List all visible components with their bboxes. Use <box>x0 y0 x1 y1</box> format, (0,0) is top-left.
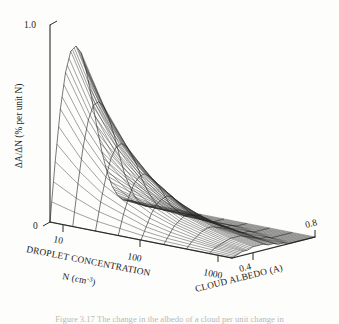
n-axis-unit-close: ) <box>91 277 96 288</box>
z-axis-tick-zero <box>43 222 50 226</box>
n-axis-unit-base: N (cm <box>61 271 88 287</box>
z-axis-tick-top <box>50 21 57 25</box>
albedo-tick-label-08: 0.8 <box>304 217 318 230</box>
z-tick-label-0: 0 <box>33 221 38 231</box>
n-tick-label-10: 10 <box>53 234 64 246</box>
figure-caption: Figure 3.17 The change in the albedo of … <box>0 313 339 324</box>
surface-mesh-albedo-lines <box>50 46 315 258</box>
z-tick-label-1: 1.0 <box>24 20 36 30</box>
z-axis-title: ΔA/ΔN (% per unit N) <box>14 84 25 168</box>
n-axis-title-line2: N (cm-3) <box>61 270 96 288</box>
figure-3d-surface-plot: 1.0 0 ΔA/ΔN (% per unit N) 10 100 1000 D… <box>0 0 339 324</box>
n-tick-label-100: 100 <box>127 251 143 264</box>
surface-plot-svg: 1.0 0 ΔA/ΔN (% per unit N) 10 100 1000 D… <box>0 0 339 324</box>
svg-text:N (cm-3): N (cm-3) <box>61 270 96 288</box>
